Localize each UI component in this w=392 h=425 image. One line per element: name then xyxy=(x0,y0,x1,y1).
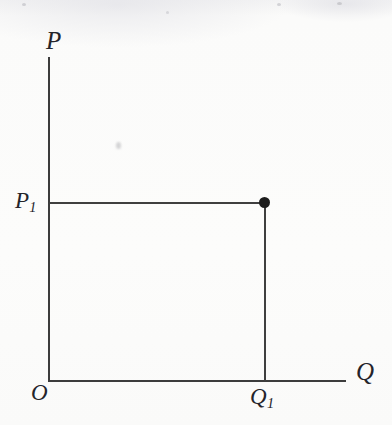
scan-speck-artifact xyxy=(22,3,26,6)
scan-speck-artifact xyxy=(337,2,342,5)
y-axis-label: P xyxy=(46,28,61,53)
price-level-label: P1 xyxy=(15,189,36,212)
scan-speck-artifact xyxy=(116,142,121,149)
scan-speck-artifact xyxy=(166,11,169,14)
x-axis-line xyxy=(48,380,346,382)
x-axis-label: Q xyxy=(356,359,374,384)
price-level-label-base: P xyxy=(15,188,29,213)
price-guide-line xyxy=(49,202,266,204)
quantity-level-label-subscript: 1 xyxy=(267,395,274,411)
origin-label: O xyxy=(31,381,48,404)
scan-speck-artifact xyxy=(277,3,281,6)
price-level-label-subscript: 1 xyxy=(29,199,36,215)
equilibrium-point-marker xyxy=(259,197,270,208)
price-quantity-figure: P Q O P1 Q1 xyxy=(0,0,392,425)
quantity-level-label-base: Q xyxy=(250,384,267,409)
quantity-level-label: Q1 xyxy=(250,385,274,408)
scan-paper-texture xyxy=(0,0,392,425)
y-axis-line xyxy=(48,57,50,382)
quantity-guide-line xyxy=(264,203,266,381)
